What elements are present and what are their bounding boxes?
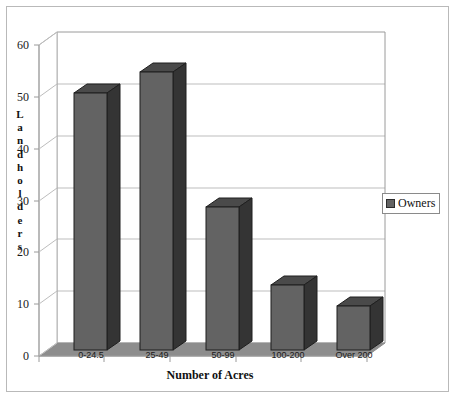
y-tick-label-20: 20 bbox=[3, 245, 29, 260]
y-tick-label-10: 10 bbox=[3, 297, 29, 312]
y-axis-title-letter: r bbox=[12, 227, 28, 240]
bar-owners-100-200 bbox=[271, 276, 317, 350]
legend-label-owners: Owners bbox=[398, 196, 435, 211]
y-axis-title-letter: h bbox=[12, 161, 28, 174]
x-tick-label-50-99: 50-99 bbox=[187, 350, 259, 360]
x-tick-label-over-200: Over 200 bbox=[318, 350, 390, 360]
y-axis-title: L a n d h o l d e r s bbox=[12, 108, 28, 253]
bar-owners-50-99 bbox=[206, 198, 252, 350]
y-tick-label-60: 60 bbox=[3, 38, 29, 53]
y-axis-title-letter: L bbox=[12, 108, 28, 121]
y-axis-title-letter: a bbox=[12, 121, 28, 134]
y-tick-label-40: 40 bbox=[3, 142, 29, 157]
y-tick-label-50: 50 bbox=[3, 90, 29, 105]
bar-owners-over-200 bbox=[337, 297, 383, 350]
y-axis-title-letter: o bbox=[12, 174, 28, 187]
bar-owners-0-24.5 bbox=[74, 84, 120, 350]
chart-container: L a n d h o l d e r s 0 10 20 30 40 50 6… bbox=[0, 0, 456, 399]
x-tick-label-100-200: 100-200 bbox=[252, 350, 324, 360]
legend-swatch-owners bbox=[386, 199, 395, 208]
chart-legend: Owners bbox=[382, 193, 440, 214]
x-axis-title: Number of Acres bbox=[60, 368, 360, 383]
x-tick-label-25-49: 25-49 bbox=[121, 350, 193, 360]
x-tick-label-0-24.5: 0-24.5 bbox=[55, 350, 127, 360]
y-tick-label-30: 30 bbox=[3, 194, 29, 209]
y-axis-title-letter: e bbox=[12, 214, 28, 227]
bar-owners-25-49 bbox=[140, 63, 186, 350]
y-tick-label-0: 0 bbox=[3, 349, 29, 364]
